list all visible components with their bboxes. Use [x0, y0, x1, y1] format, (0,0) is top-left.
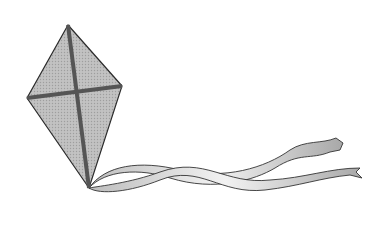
- ribbon-tails: [89, 138, 362, 192]
- kite-body: [27, 25, 122, 188]
- kite-illustration: [0, 0, 387, 229]
